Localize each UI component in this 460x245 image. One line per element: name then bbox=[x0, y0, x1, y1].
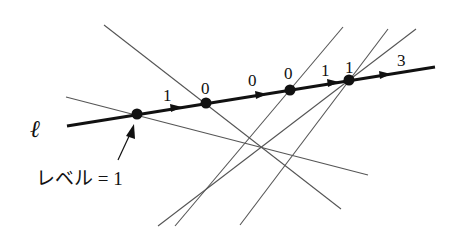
edge-label-3: 0 bbox=[248, 71, 257, 90]
thin-line-5 bbox=[158, 29, 416, 226]
edge-label-5: 1 bbox=[321, 61, 330, 80]
thin-line-3 bbox=[175, 27, 343, 226]
intersection-point bbox=[201, 98, 212, 109]
intersection-point bbox=[132, 109, 143, 120]
edge-label-7: 3 bbox=[397, 51, 406, 70]
edge-label-4: 0 bbox=[284, 64, 293, 83]
edge-label-2: 0 bbox=[201, 79, 210, 98]
thin-line-4 bbox=[240, 29, 388, 225]
intersection-point bbox=[285, 85, 296, 96]
line-arrangement-diagram: ℓ 1 0 0 0 1 1 3 レベル = 1 bbox=[0, 0, 460, 245]
line-label: ℓ bbox=[30, 116, 40, 142]
edge-label-1: 1 bbox=[163, 86, 172, 105]
annotation-arrowhead-icon bbox=[126, 124, 135, 139]
thin-line-2 bbox=[66, 97, 368, 175]
edge-label-6: 1 bbox=[345, 58, 354, 77]
thin-lines bbox=[66, 25, 416, 226]
level-annotation: レベル = 1 bbox=[36, 168, 123, 189]
